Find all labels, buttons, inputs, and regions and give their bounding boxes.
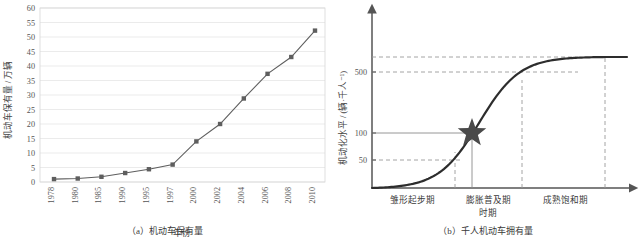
panel-b-caption: （b）千人机动车拥有量: [330, 224, 641, 237]
chart-panel-a: 051015202530354045505560 197819801985199…: [0, 0, 330, 243]
panel-a-ytick-35: 35: [27, 77, 35, 86]
panel-a-ytick-10: 10: [27, 149, 35, 158]
panel-b-y-axis-title: 机动化水平 / (辆·千人⁻¹): [337, 71, 348, 166]
panel-a-ytick-30: 30: [27, 91, 35, 100]
panel-a-x-tick-labels: 1978198019851990199519972000200220042006…: [47, 187, 317, 203]
data-point-marker: [123, 171, 127, 175]
panel-a-xtick-2002: 2002: [213, 187, 222, 203]
panel-a-ytick-50: 50: [27, 33, 35, 42]
panel-a-svg: 051015202530354045505560 197819801985199…: [0, 0, 330, 243]
panel-a-y-axis-title: 机动车保有量 / 万辆: [2, 61, 13, 140]
panel-a-ytick-25: 25: [27, 106, 35, 115]
figure-container: 051015202530354045505560 197819801985199…: [0, 0, 641, 243]
data-point-marker: [170, 162, 174, 166]
panel-a-y-tick-labels: 051015202530354045505560: [27, 4, 35, 187]
panel-a-xtick-2004: 2004: [237, 187, 246, 203]
data-point-marker: [218, 122, 222, 126]
panel-b-s-curve: [372, 57, 627, 188]
data-point-marker: [242, 96, 246, 100]
panel-a-xtick-1985: 1985: [94, 187, 103, 203]
data-point-marker: [76, 176, 80, 180]
chart-panel-b: 500 100 50 雏形起步期 膨胀普及期 成熟饱和期 时期 机动化水平 / …: [330, 0, 641, 243]
panel-b-guide-lines: [372, 57, 605, 188]
panel-a-xtick-2010: 2010: [308, 187, 317, 203]
panel-a-xtick-1997: 1997: [166, 187, 175, 203]
panel-a-ytick-5: 5: [31, 164, 35, 173]
panel-b-svg: 500 100 50 雏形起步期 膨胀普及期 成熟饱和期 时期 机动化水平 / …: [330, 0, 641, 243]
data-point-marker: [313, 28, 317, 32]
panel-a-ytick-20: 20: [27, 120, 35, 129]
panel-a-xtick-1995: 1995: [142, 187, 151, 203]
phase-label-1: 雏形起步期: [390, 194, 435, 205]
panel-a-ytick-40: 40: [27, 62, 35, 71]
data-point-marker: [147, 167, 151, 171]
phase-label-3: 成熟饱和期: [543, 194, 588, 205]
data-point-marker: [194, 139, 198, 143]
data-point-marker: [289, 55, 293, 59]
panel-a-xtick-2006: 2006: [261, 187, 270, 203]
panel-b-x-axis-title: 时期: [479, 207, 497, 218]
panel-a-ytick-55: 55: [27, 19, 35, 28]
panel-a-xtick-1980: 1980: [71, 187, 80, 203]
panel-a-xtick-1978: 1978: [47, 187, 56, 203]
data-point-marker: [265, 72, 269, 76]
data-point-marker: [52, 177, 56, 181]
panel-b-ytick-100: 100: [355, 129, 367, 138]
panel-a-xtick-2000: 2000: [189, 187, 198, 203]
panel-a-ytick-0: 0: [31, 178, 35, 187]
panel-a-xtick-2008: 2008: [284, 187, 293, 203]
panel-a-xtick-1990: 1990: [118, 187, 127, 203]
panel-a-caption: （a）机动车保有量: [0, 224, 330, 237]
phase-label-2: 膨胀普及期: [466, 194, 511, 205]
panel-a-gridlines: [40, 8, 325, 182]
panel-a-ytick-45: 45: [27, 48, 35, 57]
panel-a-ytick-60: 60: [27, 4, 35, 13]
panel-b-ytick-500: 500: [355, 68, 367, 77]
panel-b-ytick-50: 50: [359, 156, 367, 165]
data-point-marker: [99, 175, 103, 179]
panel-a-ytick-15: 15: [27, 135, 35, 144]
panel-a-data-line: [54, 31, 315, 179]
